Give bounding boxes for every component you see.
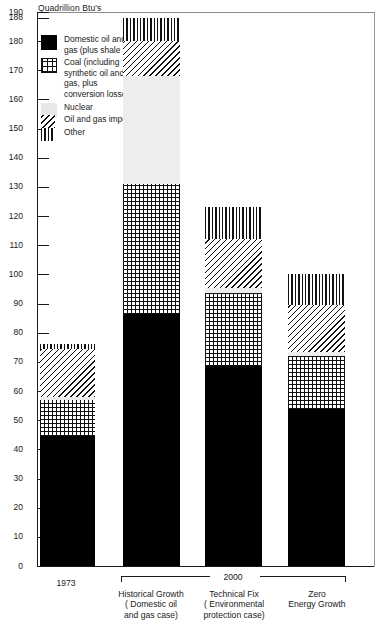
- bar-4-segment-coal: [288, 356, 345, 408]
- y-tick-label-150: 150: [9, 123, 23, 133]
- y-tick-label-180: 180: [9, 36, 23, 46]
- y-tick-mark-130: [37, 187, 49, 188]
- cat2-line2: ( Domestic oil: [114, 599, 188, 609]
- cat3-line2: ( Environmental: [196, 599, 272, 609]
- y-tick-label-110: 110: [9, 240, 23, 250]
- bar-3-segment-oil: [205, 366, 262, 566]
- y-tick-mark-120: [37, 216, 49, 217]
- y-tick-label-30: 30: [14, 473, 23, 483]
- y-tick-label-140: 140: [9, 152, 23, 162]
- y-tick-label-120: 120: [9, 211, 23, 221]
- bar-4-segment-nuclear: [288, 352, 345, 356]
- bar-4: [288, 274, 345, 566]
- bar-2-segment-other: [123, 18, 180, 41]
- cat2-line3: and gas case): [114, 610, 188, 620]
- y-tick-label-90: 90: [14, 298, 23, 308]
- bar-4-segment-imports: [288, 305, 345, 352]
- y-tick-mark-188: [37, 18, 49, 19]
- y-tick-mark-190: [37, 12, 49, 13]
- bar-1-segment-imports: [40, 349, 95, 398]
- y-tick-label-60: 60: [14, 386, 23, 396]
- bar-3-segment-coal: [205, 293, 262, 366]
- bar-3-segment-other: [205, 207, 262, 239]
- bar-4-segment-oil: [288, 409, 345, 566]
- y-tick-label-130: 130: [9, 181, 23, 191]
- cat3-line3: protection case): [196, 610, 272, 620]
- category-label-zero-energy-growth: Zero Energy Growth: [281, 589, 353, 610]
- y-tick-mark-90: [37, 304, 49, 305]
- y-tick-label-0: 0: [18, 561, 23, 571]
- bar-2-segment-coal: [123, 184, 180, 314]
- legend-swatch-domestic-oil-icon: [41, 35, 57, 50]
- bar-1-segment-nuclear: [40, 397, 95, 399]
- y-tick-mark-100: [37, 274, 49, 275]
- cat4-line2: Energy Growth: [281, 599, 353, 609]
- category-label-1973: 1973: [34, 578, 98, 588]
- y-tick-label-100: 100: [9, 269, 23, 279]
- bar-3-segment-nuclear: [205, 288, 262, 294]
- category-label-technical-fix: Technical Fix ( Environmental protection…: [196, 589, 272, 620]
- bar-2-segment-imports: [123, 41, 180, 76]
- y-tick-label-10: 10: [14, 531, 23, 541]
- bar-3: [205, 207, 262, 566]
- y-tick-mark-110: [37, 245, 49, 246]
- y-tick-label-170: 170: [9, 65, 23, 75]
- bar-3-segment-imports: [205, 239, 262, 287]
- chart-top-rule: [37, 12, 375, 13]
- bar-1-segment-oil: [40, 436, 95, 566]
- y-tick-label-160: 160: [9, 94, 23, 104]
- bar-2: [123, 18, 180, 566]
- y-tick-label-80: 80: [14, 327, 23, 337]
- bar-1: [40, 344, 95, 566]
- y-tick-label-70: 70: [14, 356, 23, 366]
- cat2-line1: Historical Growth: [114, 589, 188, 599]
- y-tick-label-40: 40: [14, 444, 23, 454]
- stacked-bar-chart: Quadrillion Btu's 1901881801701601501401…: [0, 0, 382, 627]
- chart-right-border: [374, 12, 375, 567]
- x-axis-baseline: [37, 566, 375, 567]
- group-label-2000: 2000: [208, 572, 258, 582]
- category-label-historical-growth: Historical Growth ( Domestic oil and gas…: [114, 589, 188, 620]
- bar-1-segment-other: [40, 344, 95, 348]
- bar-2-segment-oil: [123, 314, 180, 566]
- y-tick-label-20: 20: [14, 502, 23, 512]
- y-tick-label-50: 50: [14, 415, 23, 425]
- cat3-line1: Technical Fix: [196, 589, 272, 599]
- bar-4-segment-other: [288, 274, 345, 305]
- y-axis-line: [37, 12, 38, 567]
- bar-2-segment-nuclear: [123, 76, 180, 184]
- legend-swatch-other-icon: [41, 128, 54, 141]
- legend-swatch-coal-icon: [41, 58, 57, 73]
- cat4-line1: Zero: [281, 589, 353, 599]
- y-tick-mark-80: [37, 333, 49, 334]
- y-tick-mark-140: [37, 158, 49, 159]
- bar-1-segment-coal: [40, 400, 95, 436]
- y-tick-mark-0: [37, 566, 49, 567]
- y-tick-label-188: 188: [9, 12, 23, 22]
